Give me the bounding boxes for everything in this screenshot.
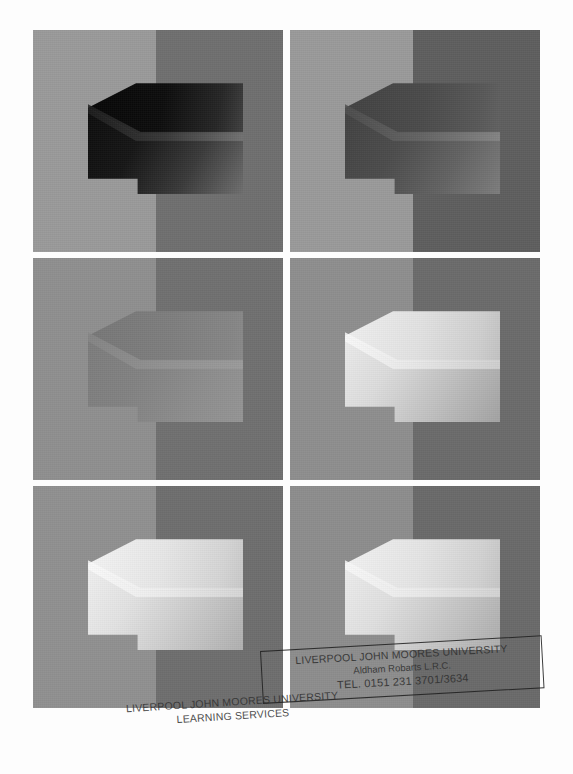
figure-panel-5 xyxy=(33,486,283,708)
panel-1-block xyxy=(88,83,243,194)
scanned-page: LIVERPOOL JOHN MOORES UNIVERSITY Aldham … xyxy=(0,0,573,774)
figure-panel-grid xyxy=(33,30,540,708)
figure-panel-4 xyxy=(290,258,540,480)
panel-5-block xyxy=(88,539,243,650)
figure-panel-3 xyxy=(33,258,283,480)
panel-3-block xyxy=(88,311,243,422)
panel-4-block xyxy=(345,311,500,422)
panel-2-block xyxy=(345,83,500,194)
figure-panel-1 xyxy=(33,30,283,252)
panel-6-block xyxy=(345,539,500,650)
figure-panel-2 xyxy=(290,30,540,252)
figure-panel-6 xyxy=(290,486,540,708)
